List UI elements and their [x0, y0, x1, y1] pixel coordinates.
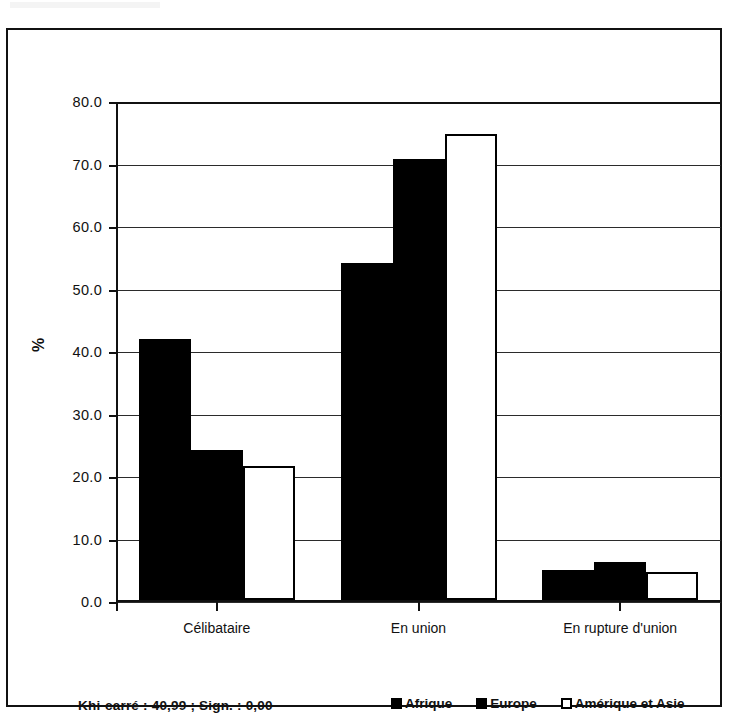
- y-axis-tick-50: [109, 290, 118, 292]
- gridline-80: [116, 102, 721, 104]
- y-axis-title: %: [30, 338, 48, 352]
- bar-0-1: [191, 450, 243, 600]
- y-axis-label-60: 60.0: [73, 219, 102, 235]
- bar-0-2: [243, 466, 295, 600]
- y-axis-tick-30: [109, 415, 118, 417]
- y-axis-tick-70: [109, 165, 118, 167]
- y-axis-tick-40: [109, 352, 118, 354]
- bar-1-1: [393, 159, 445, 600]
- x-axis-label-1: En union: [391, 620, 446, 636]
- x-axis-tick-1: [418, 602, 420, 611]
- x-axis-label-0: Célibataire: [183, 620, 250, 636]
- x-axis-tick-2: [619, 602, 621, 611]
- y-axis-label-50: 50.0: [73, 282, 102, 298]
- bar-2-0: [542, 570, 594, 600]
- x-axis-label-2: En rupture d'union: [563, 620, 677, 636]
- y-axis-label-80: 80.0: [73, 94, 102, 110]
- legend-label-0: Afrique: [405, 696, 452, 711]
- y-axis-tick-10: [109, 540, 118, 542]
- legend-swatch-1: [476, 698, 487, 709]
- bar-2-2: [646, 572, 698, 600]
- legend-label-1: Europe: [490, 696, 537, 711]
- y-axis-tick-80: [109, 102, 118, 104]
- x-axis-tick-0: [216, 602, 218, 611]
- legend-swatch-2: [561, 698, 572, 709]
- y-axis-label-10: 10.0: [73, 532, 102, 548]
- chart-frame: % 80.070.060.050.040.030.020.010.00.0 Cé…: [6, 28, 722, 707]
- y-axis-label-20: 20.0: [73, 469, 102, 485]
- y-axis-label-70: 70.0: [73, 157, 102, 173]
- legend-item-0: Afrique: [391, 696, 452, 711]
- bar-1-0: [341, 263, 393, 600]
- legend-item-1: Europe: [476, 696, 537, 711]
- y-axis-label-40: 40.0: [73, 344, 102, 360]
- y-axis-label-30: 30.0: [73, 407, 102, 423]
- bar-2-1: [594, 562, 646, 600]
- chart-legend: AfriqueEuropeAmérique et Asie: [391, 696, 685, 711]
- bar-0-0: [139, 339, 191, 600]
- plot-area: 80.070.060.050.040.030.020.010.00.0 Céli…: [116, 102, 721, 602]
- y-axis-tick-20: [109, 477, 118, 479]
- x-axis-tick-origin: [116, 602, 118, 611]
- y-axis-tick-60: [109, 227, 118, 229]
- legend-item-2: Amérique et Asie: [561, 696, 685, 711]
- bar-1-2: [445, 134, 497, 600]
- legend-label-2: Amérique et Asie: [575, 696, 685, 711]
- y-axis-label-0: 0.0: [81, 594, 102, 610]
- statistics-note: Khi-carré : 40,99 ; Sign. : 0,00: [78, 698, 273, 713]
- legend-swatch-0: [391, 698, 402, 709]
- scan-artifact: [10, 2, 160, 8]
